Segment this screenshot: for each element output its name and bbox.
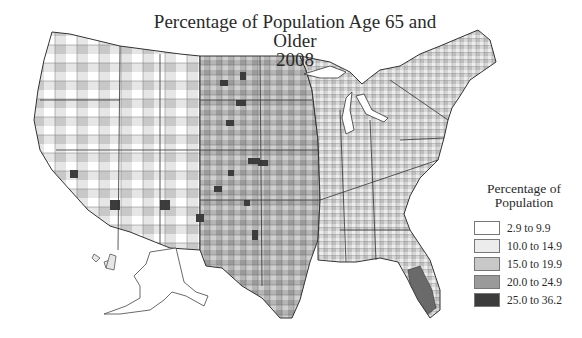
hawaii [92, 254, 116, 270]
legend-swatch [474, 275, 500, 289]
legend-title: Percentage of Population [466, 182, 582, 210]
legend-item: 2.9 to 9.9 [466, 219, 582, 237]
map-title-year: 2008 [150, 50, 440, 69]
alaska [104, 248, 208, 314]
legend-title-line1: Percentage of [466, 182, 582, 196]
map-title: Percentage of Population Age 65 and Olde… [150, 12, 440, 69]
legend-label: 25.0 to 36.2 [507, 294, 562, 306]
legend-item: 10.0 to 14.9 [466, 237, 582, 255]
legend: Percentage of Population 2.9 to 9.9 10.0… [466, 182, 582, 309]
legend-title-line2: Population [466, 196, 582, 210]
legend-swatch [474, 221, 500, 235]
legend-label: 20.0 to 24.9 [507, 276, 562, 288]
legend-swatch [474, 239, 500, 253]
legend-swatch [474, 257, 500, 271]
legend-item: 15.0 to 19.9 [466, 255, 582, 273]
legend-label: 2.9 to 9.9 [507, 222, 550, 234]
legend-item: 25.0 to 36.2 [466, 291, 582, 309]
legend-item: 20.0 to 24.9 [466, 273, 582, 291]
contiguous-us [34, 30, 496, 318]
legend-label: 15.0 to 19.9 [507, 258, 562, 270]
legend-items: 2.9 to 9.9 10.0 to 14.9 15.0 to 19.9 20.… [466, 219, 582, 309]
legend-label: 10.0 to 14.9 [507, 240, 562, 252]
map-title-line1: Percentage of Population Age 65 and Olde… [154, 11, 436, 51]
legend-swatch [474, 293, 500, 307]
